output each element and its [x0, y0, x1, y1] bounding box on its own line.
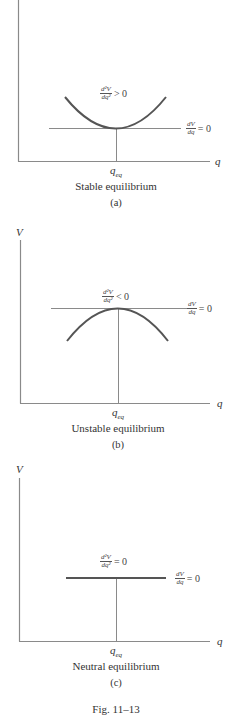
- slope-relation: = 0: [199, 303, 212, 314]
- eq-subscript: eq: [115, 651, 122, 659]
- eq-subscript: eq: [117, 413, 124, 421]
- curvature-denominator: dq²: [101, 94, 110, 101]
- panel-a-x-axis-label: q: [215, 155, 221, 167]
- figure-graphics: [0, 0, 236, 724]
- panel-a-equilibrium-label: qeq: [110, 164, 122, 179]
- slope-relation: = 0: [187, 573, 200, 584]
- panel-b-title: Unstable equilibrium: [71, 422, 164, 434]
- curvature-relation: > 0: [114, 88, 127, 99]
- eq-subscript: eq: [115, 171, 122, 179]
- panel-b-y-axis-label: V: [16, 226, 23, 238]
- curvature-relation: = 0: [114, 556, 127, 567]
- panel-a-title: Stable equilibrium: [75, 180, 157, 192]
- slope-denominator: dq: [176, 579, 183, 586]
- panel-b-slope-label: dVdq = 0: [187, 301, 212, 316]
- panel-a-potential-curve: [65, 97, 166, 129]
- panel-b-curvature-label: d²Vdq² < 0: [102, 289, 129, 304]
- panel-c-x-axis-label: q: [217, 635, 223, 647]
- slope-denominator: dq: [188, 309, 195, 316]
- slope-denominator: dq: [187, 129, 194, 136]
- panel-b-graphics: [20, 240, 210, 404]
- curvature-denominator: dq²: [103, 297, 112, 304]
- panel-b-potential-curve: [67, 309, 168, 342]
- panel-c-equilibrium-label: qeq: [110, 644, 122, 659]
- panel-a-curvature-label: d²Vdq² > 0: [100, 86, 127, 101]
- panel-c-tag: (c): [110, 677, 122, 688]
- panel-c-curvature-label: d²Vdq² = 0: [100, 554, 127, 569]
- panel-b-equilibrium-label: qeq: [112, 406, 124, 421]
- panel-a-tag: (a): [110, 197, 122, 208]
- panel-c-title: Neutral equilibrium: [72, 660, 159, 672]
- panel-b-x-axis-label: q: [217, 397, 223, 409]
- curvature-denominator: dq²: [101, 562, 110, 569]
- panel-c-y-axis-label: V: [16, 463, 23, 475]
- panel-c-slope-label: dVdq = 0: [175, 571, 200, 586]
- slope-relation: = 0: [198, 123, 211, 134]
- panel-b-tag: (b): [112, 439, 124, 450]
- curvature-relation: < 0: [116, 291, 129, 302]
- panel-a-graphics: [18, 0, 210, 162]
- panel-a-slope-label: dVdq = 0: [186, 121, 211, 136]
- figure-caption: Fig. 11–13: [92, 703, 139, 715]
